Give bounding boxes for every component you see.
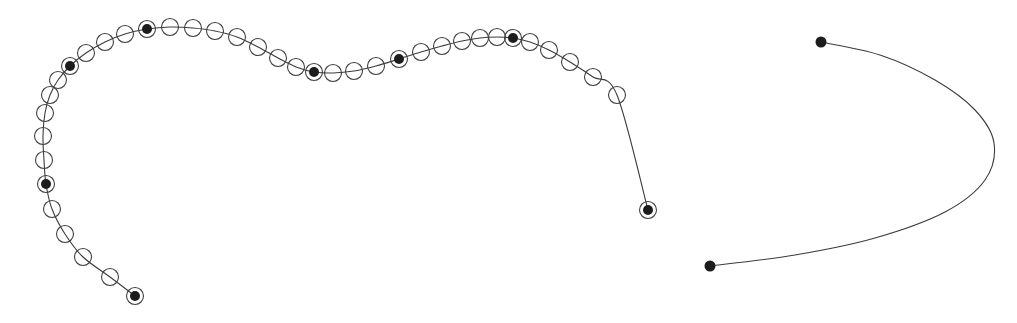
endpoint-dot-marker — [705, 261, 716, 272]
filled-circle-core — [142, 24, 152, 34]
filled-circle-core — [309, 67, 319, 77]
endpoint-dot-marker — [816, 37, 827, 48]
filled-circle-core — [65, 61, 75, 71]
arc-curve-layer — [710, 42, 994, 266]
figure-canvas — [0, 0, 1017, 323]
filled-circle-core — [41, 179, 51, 189]
main-curve-layer — [43, 27, 648, 296]
marker-layer — [35, 19, 657, 305]
filled-circle-core — [643, 205, 653, 215]
filled-circle-core — [394, 54, 404, 64]
filled-circle-core — [130, 291, 140, 301]
curve-figure-svg — [0, 0, 1017, 323]
filled-circle-core — [508, 33, 518, 43]
endpoint-dot-layer — [705, 37, 827, 272]
main-curve-path — [43, 27, 648, 296]
arc-curve-path — [710, 42, 994, 266]
